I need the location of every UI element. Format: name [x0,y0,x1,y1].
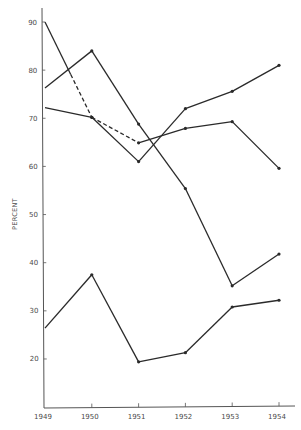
x-tick-label: 1951 [128,413,146,421]
y-axis-title: PERCENT [11,198,19,230]
data-point-marker [184,351,187,354]
series-2 [45,64,281,163]
series-segment [92,51,139,124]
series-4 [45,273,281,363]
line-chart: 2030405060708090 19491950195119521953195… [0,0,301,430]
data-point-marker [277,64,280,67]
series-segment [92,275,139,362]
data-point-marker [231,120,234,123]
data-point-marker [231,284,234,287]
series-segment [45,275,92,328]
series-segment [232,122,279,169]
y-tick-label: 20 [30,355,39,363]
x-tick-label: 1950 [81,413,99,421]
series-segment [45,51,92,88]
series-segment [185,91,232,108]
data-point-marker [137,360,140,363]
data-point-marker [277,252,280,255]
y-tick-label: 70 [29,115,38,123]
y-tick-label: 40 [29,259,38,267]
series-segment-dashed [71,74,92,117]
series-segment [185,307,232,353]
x-axis: 194919501951195219531954 [34,402,295,421]
data-point-marker [90,273,93,276]
y-axis: 2030405060708090 [28,8,47,408]
y-tick-label: 30 [30,307,39,315]
series-layer [45,22,281,363]
series-segment [185,189,232,286]
series-segment [139,109,186,162]
data-point-marker [90,116,93,119]
series-segment [139,353,186,362]
y-tick-label: 90 [28,19,37,27]
x-tick-label: 1952 [174,413,192,421]
data-point-marker [137,160,140,163]
series-segment [45,108,92,118]
data-point-marker [90,49,93,52]
y-axis-line [42,8,44,408]
y-tick-label: 60 [29,163,38,171]
data-point-marker [231,90,234,93]
y-tick-label: 80 [28,67,37,75]
series-segment [232,65,279,91]
series-segment [232,300,279,307]
data-point-marker [184,187,187,190]
series-3 [45,49,281,287]
data-point-marker [137,122,140,125]
data-point-marker [277,299,280,302]
series-segment [185,122,232,129]
series-segment [139,124,186,189]
x-tick-label: 1954 [268,413,286,421]
data-point-marker [137,141,140,144]
data-point-marker [184,127,187,130]
x-tick-label: 1953 [221,413,239,421]
series-1 [45,22,281,170]
data-point-marker [231,305,234,308]
series-segment [232,254,279,286]
y-tick-label: 50 [29,211,38,219]
x-tick-label: 1949 [34,413,52,421]
x-axis-line [44,406,295,408]
data-point-marker [277,167,280,170]
data-point-marker [184,107,187,110]
series-segment [45,22,71,74]
